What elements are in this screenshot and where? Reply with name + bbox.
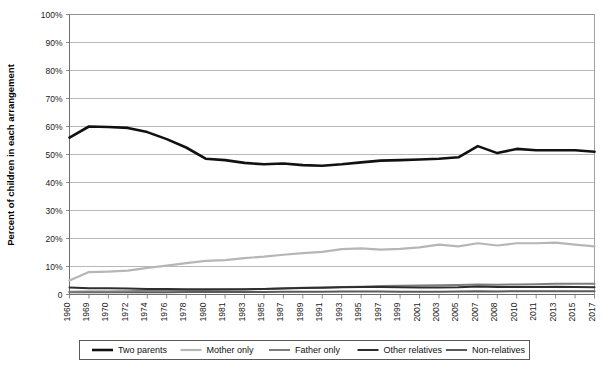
x-axis-tick-label: 1995 <box>353 302 363 321</box>
x-axis-tick-label: 1991 <box>314 302 324 321</box>
legend-label-other-relatives: Other relatives <box>384 345 443 355</box>
line-chart: Percent of children in each arrangement … <box>0 0 608 365</box>
y-axis-tick-label: 100% <box>41 10 63 20</box>
y-axis-tick-label: 40% <box>45 178 62 188</box>
x-axis-tick-label: 2013 <box>548 302 558 321</box>
x-axis-tick-label: 2017 <box>587 302 597 321</box>
x-axis-tick-label: 1974 <box>139 302 149 321</box>
legend-label-non-relatives: Non-relatives <box>472 345 526 355</box>
top-cropped-title-area <box>0 0 608 7</box>
y-axis-tick-label: 0 <box>58 290 63 300</box>
y-axis-tick-label: 60% <box>45 122 62 132</box>
x-axis-tick-label: 1989 <box>295 302 305 321</box>
x-axis-tick-label: 1999 <box>392 302 402 321</box>
x-axis-tick-label: 1983 <box>237 302 247 321</box>
y-axis-tick-label: 80% <box>45 66 62 76</box>
x-axis-tick-label: 1976 <box>159 302 169 321</box>
x-axis-tick-label: 1997 <box>373 302 383 321</box>
y-axis-title: Percent of children in each arrangement <box>5 63 16 245</box>
x-axis-tick-label: 1969 <box>81 302 91 321</box>
legend-label-father-only: Father only <box>295 345 341 355</box>
x-axis-tick-label: 1960 <box>62 302 72 321</box>
x-axis-tick-label: 2010 <box>509 302 519 321</box>
x-axis-tick-label: 1981 <box>217 302 227 321</box>
y-axis-tick-label: 50% <box>45 150 62 160</box>
x-axis-tick-label: 1970 <box>100 302 110 321</box>
x-axis-tick-label: 1993 <box>334 302 344 321</box>
x-axis-tick-label: 2015 <box>567 302 577 321</box>
x-axis-tick-label: 2008 <box>489 302 499 321</box>
y-axis-tick-label: 10% <box>45 262 62 272</box>
x-axis-tick-label: 1985 <box>256 302 266 321</box>
x-axis-tick-label: 1987 <box>275 302 285 321</box>
legend-label-mother-only: Mother only <box>207 345 255 355</box>
x-axis-tick-label: 2001 <box>412 302 422 321</box>
x-axis-tick-label: 1980 <box>198 302 208 321</box>
chart-container: Percent of children in each arrangement … <box>0 0 608 365</box>
x-axis-tick-label: 2007 <box>470 302 480 321</box>
legend-label-two-parents: Two parents <box>118 345 168 355</box>
x-axis-tick-label: 1972 <box>120 302 130 321</box>
y-axis-tick-label: 30% <box>45 206 62 216</box>
x-axis-tick-label: 1978 <box>178 302 188 321</box>
x-axis-tick-label: 2003 <box>431 302 441 321</box>
y-axis-tick-label: 90% <box>45 38 62 48</box>
x-axis-tick-label: 2005 <box>450 302 460 321</box>
x-axis-tick-label: 2011 <box>528 302 538 321</box>
y-axis-tick-label: 70% <box>45 94 62 104</box>
y-axis-tick-label: 20% <box>45 234 62 244</box>
